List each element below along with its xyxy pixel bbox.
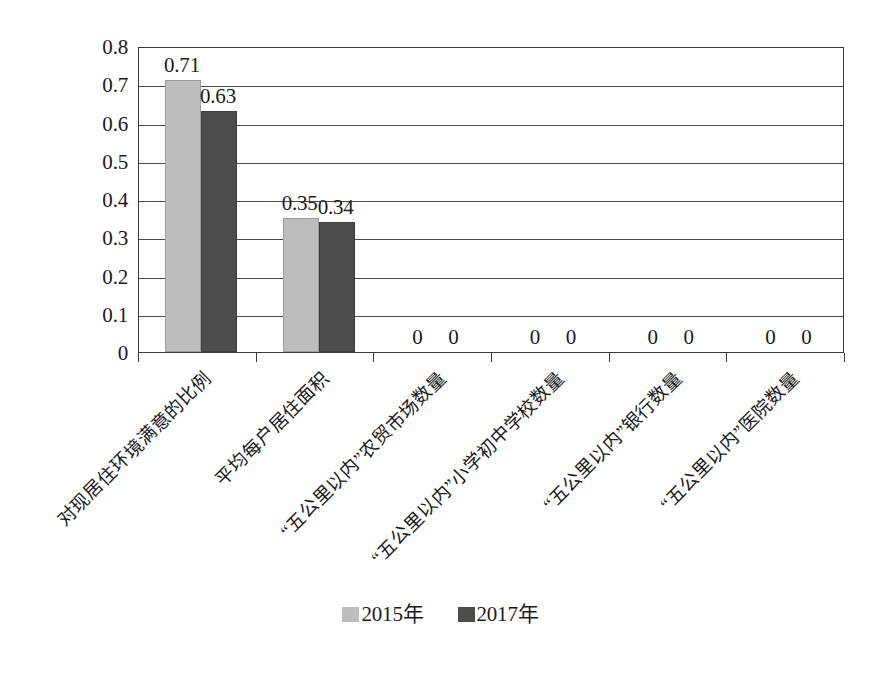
y-axis: 0.80.70.60.50.40.30.20.10 xyxy=(88,47,134,353)
gridline xyxy=(139,278,843,279)
bar xyxy=(165,80,201,352)
value-label: 0 xyxy=(684,327,694,348)
legend-entry[interactable]: 2015年 xyxy=(342,604,423,625)
bar xyxy=(201,111,237,352)
x-axis-category-label: 对现居住环境满意的比例 xyxy=(53,368,215,530)
gridline xyxy=(139,201,843,202)
value-label: 0 xyxy=(648,327,658,348)
legend-label: 2015年 xyxy=(361,604,423,625)
bar xyxy=(283,218,319,352)
gridline xyxy=(139,316,843,317)
y-tick-label: 0.1 xyxy=(102,304,128,325)
bar xyxy=(319,222,355,352)
legend-label: 2017年 xyxy=(477,604,539,625)
x-axis-category-label: 平均每户居住面积 xyxy=(211,368,333,490)
value-label: 0 xyxy=(801,327,811,348)
x-tick xyxy=(726,353,727,362)
y-tick-label: 0.2 xyxy=(102,266,128,287)
value-label: 0.34 xyxy=(318,197,354,218)
x-tick xyxy=(138,353,139,362)
y-tick-label: 0.3 xyxy=(102,228,128,249)
value-label: 0.63 xyxy=(200,86,236,107)
x-tick xyxy=(609,353,610,362)
value-label: 0 xyxy=(765,327,775,348)
y-tick-label: 0.6 xyxy=(102,113,128,134)
value-label: 0 xyxy=(530,327,540,348)
x-tick xyxy=(844,353,845,362)
chart-legend: 2015年2017年 xyxy=(0,604,881,625)
gridline xyxy=(139,125,843,126)
value-label: 0.35 xyxy=(282,193,318,214)
x-tick xyxy=(491,353,492,362)
legend-swatch-icon xyxy=(342,607,359,622)
y-tick-label: 0 xyxy=(118,343,128,364)
value-label: 0 xyxy=(566,327,576,348)
x-axis-category-label-text: 对现居住环境满意的比例 xyxy=(53,368,215,530)
x-axis-category-label: “五公里以内”小学初中学校数量 xyxy=(368,368,569,569)
x-tick xyxy=(373,353,374,362)
gridline xyxy=(139,163,843,164)
y-tick-label: 0.8 xyxy=(102,37,128,58)
gridline xyxy=(139,86,843,87)
chart-figure: 0.80.70.60.50.40.30.20.10 对现居住环境满意的比例平均每… xyxy=(0,0,881,686)
y-tick-label: 0.5 xyxy=(102,151,128,172)
gridline xyxy=(139,239,843,240)
y-tick-label: 0.7 xyxy=(102,75,128,96)
value-label: 0.71 xyxy=(164,55,200,76)
legend-swatch-icon xyxy=(458,607,475,622)
value-label: 0 xyxy=(412,327,422,348)
value-label: 0 xyxy=(448,327,458,348)
x-tick xyxy=(256,353,257,362)
x-axis-category-label-text: “五公里以内”小学初中学校数量 xyxy=(368,368,569,569)
legend-entry[interactable]: 2017年 xyxy=(458,604,539,625)
y-tick-label: 0.4 xyxy=(102,190,128,211)
x-axis-category-label-text: 平均每户居住面积 xyxy=(211,368,333,490)
plot-area xyxy=(138,47,844,353)
